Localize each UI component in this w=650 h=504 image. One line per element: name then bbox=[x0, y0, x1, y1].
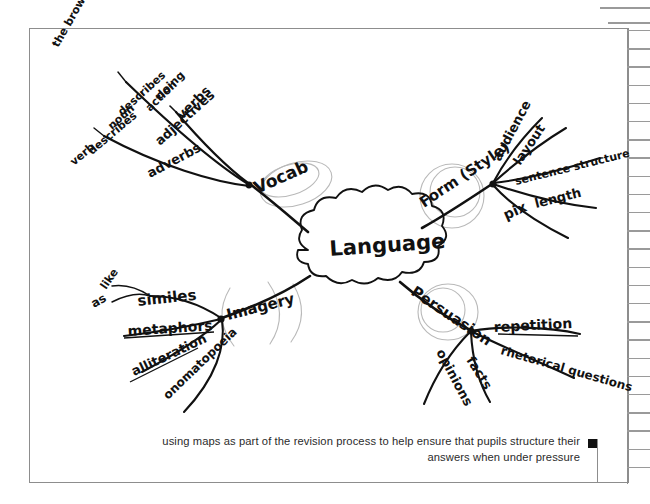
persuasion-child-rhetorical-label: rhetorical questions bbox=[499, 343, 634, 394]
form-node-dot bbox=[489, 180, 496, 187]
branch-imagery-label: Imagery bbox=[225, 290, 297, 324]
imagery-note-like: like bbox=[98, 266, 121, 292]
mindmap-drawing: Language Vocab verbs doing action adject… bbox=[0, 0, 650, 504]
persuasion-child-opinions-label: opinions bbox=[433, 346, 476, 408]
vocab-node-dot bbox=[246, 182, 253, 189]
caption-line-2: answers when under pressure bbox=[150, 450, 580, 466]
imagery-note-as: as bbox=[89, 291, 109, 311]
center-node-label: Language bbox=[329, 229, 446, 261]
caption-vertical-rule bbox=[597, 439, 598, 483]
branch-vocab: Vocab verbs doing action adjectives desc… bbox=[49, 0, 311, 232]
branch-persuasion: Persuasion repetition rhetorical questio… bbox=[400, 282, 634, 409]
caption-text: using maps as part of the revision proce… bbox=[150, 434, 580, 465]
caption-line-1: using maps as part of the revision proce… bbox=[150, 434, 580, 450]
imagery-node-dot bbox=[217, 315, 224, 322]
persuasion-node-dot bbox=[467, 327, 474, 334]
branch-imagery: Imagery similes like as metaphors allite… bbox=[89, 266, 311, 412]
persuasion-child-repetition-label: repetition bbox=[493, 315, 572, 335]
form-child-length-label: length bbox=[533, 185, 583, 211]
form-child-pix-label: pix bbox=[501, 198, 529, 222]
vocab-note-the-brown-dog: the brown dog bbox=[49, 0, 105, 50]
end-marker-square bbox=[588, 439, 597, 448]
scanned-page: Language Vocab verbs doing action adject… bbox=[0, 0, 650, 504]
imagery-child-similes-label: similes bbox=[137, 286, 198, 310]
